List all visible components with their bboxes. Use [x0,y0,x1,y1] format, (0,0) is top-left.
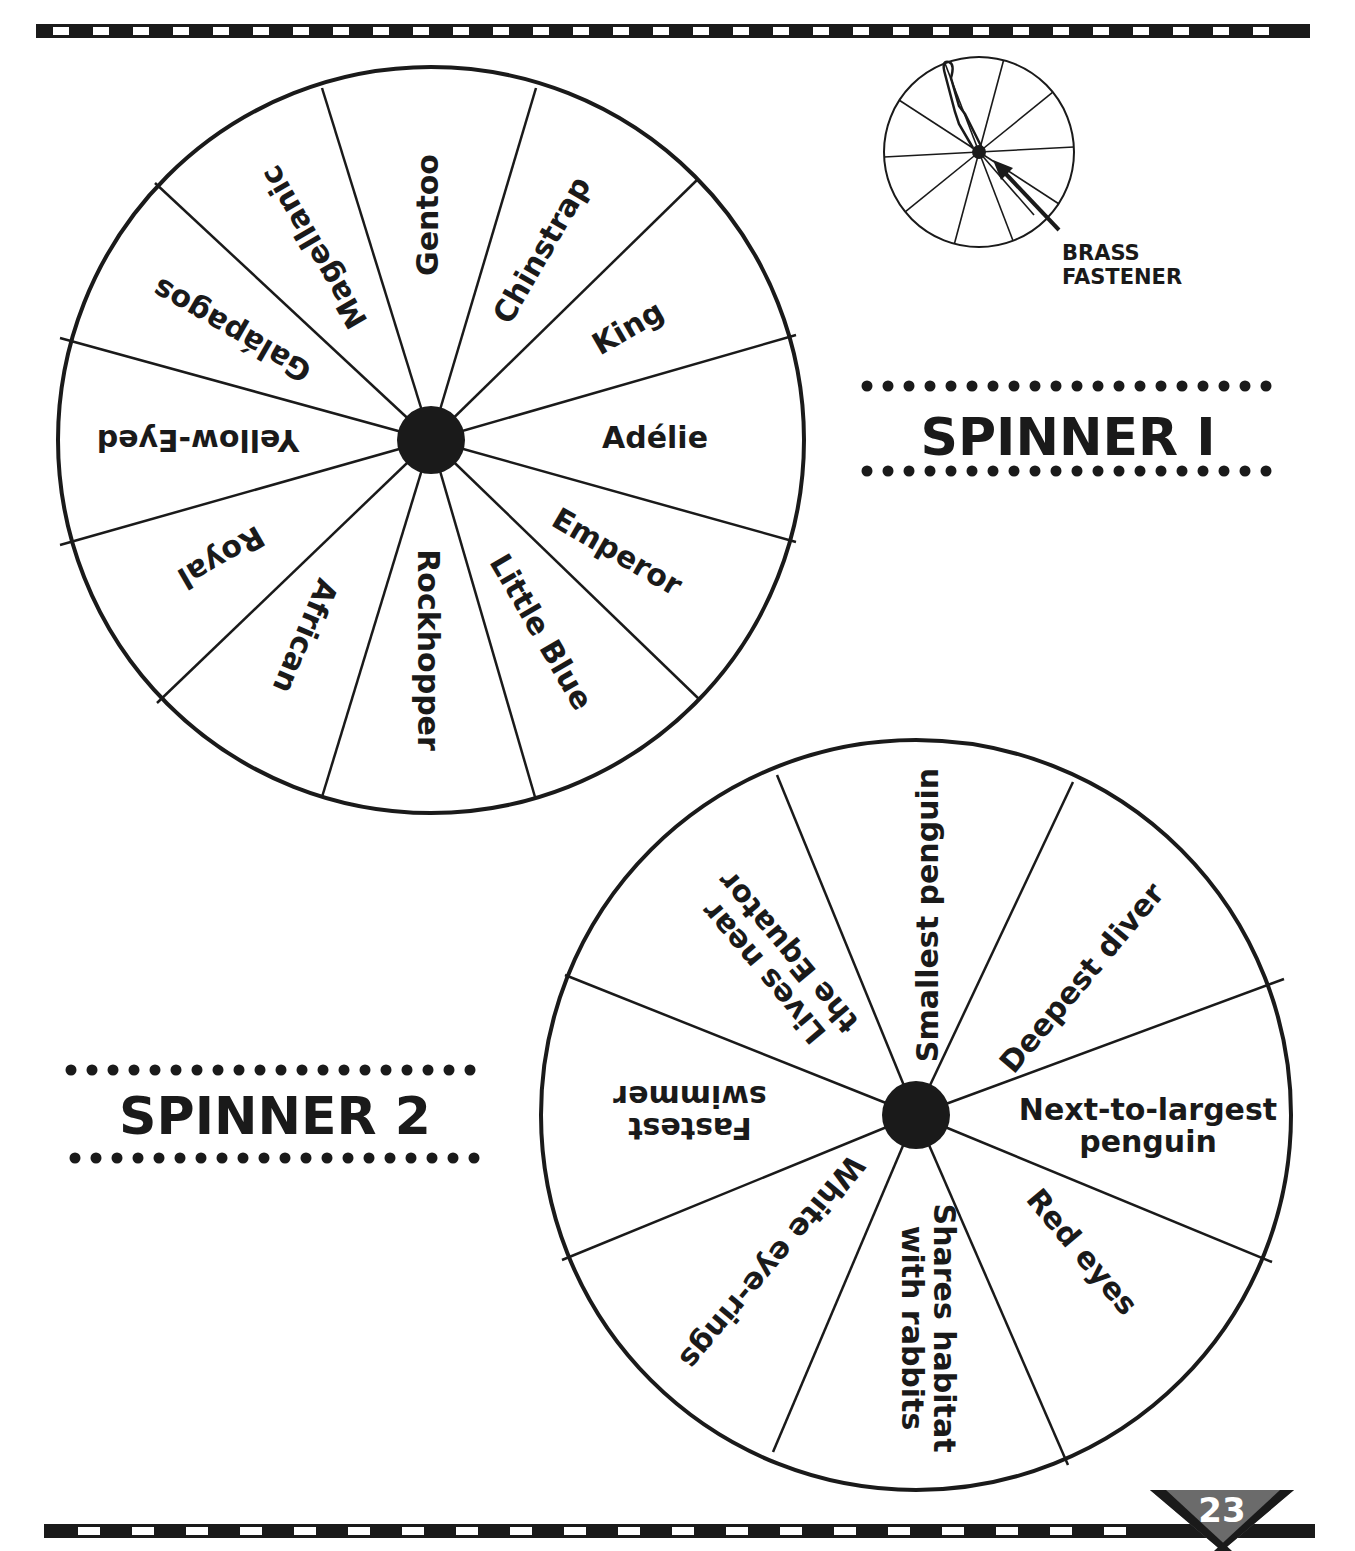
segment-label: Yellow-Eyed [97,423,301,458]
spinner-2-title: SPINNER 2 [119,1086,431,1146]
title-dot [862,466,873,477]
rule-dash [1253,27,1269,35]
rule-dash [402,1527,424,1535]
spinner-1-title-block: SPINNER I [862,381,1272,477]
title-dot [1093,466,1104,477]
title-dot [1009,381,1020,392]
title-dot [301,1153,312,1164]
brass-fastener-hub [882,1081,950,1149]
segment-label-line: penguin [1079,1124,1217,1159]
rule-dash [510,1527,532,1535]
segment-label-line: Gentoo [410,154,445,276]
rule-dash [733,27,749,35]
title-dot [175,1153,186,1164]
rule-dash [773,27,789,35]
title-dot [448,1153,459,1164]
title-dot [883,381,894,392]
title-dot [1009,466,1020,477]
title-dot [87,1065,98,1076]
rule-dash [1093,27,1109,35]
rule-dash [1133,27,1149,35]
title-dot [255,1065,266,1076]
title-dot [280,1153,291,1164]
rule-dash [293,27,309,35]
title-dot [444,1065,455,1076]
title-dot [883,466,894,477]
title-dot [1030,381,1041,392]
spinner-2-title-block: SPINNER 2 [66,1065,480,1164]
rule-dash [672,1527,694,1535]
title-dot [423,1065,434,1076]
rule-dash [53,27,69,35]
segment-label: Shares habitatwith rabbits [895,1204,962,1453]
title-dot [91,1153,102,1164]
segment-label: Adélie [602,420,708,455]
rule-dash [933,27,949,35]
spinner-2-wheel: Smallest penguinDeepest diverNext-to-lar… [541,740,1291,1490]
rule-dash [613,27,629,35]
rule-dash [618,1527,640,1535]
title-dot [862,381,873,392]
title-dot [339,1065,350,1076]
title-dot [381,1065,392,1076]
title-dot [192,1065,203,1076]
segment-label-line: with rabbits [895,1226,930,1431]
rule-dash [726,1527,748,1535]
rule-dash [413,27,429,35]
title-dot [967,381,978,392]
title-dot [133,1153,144,1164]
title-dot [1240,466,1251,477]
title-dot [364,1153,375,1164]
title-dot [1072,466,1083,477]
title-dot [1072,381,1083,392]
rule-dash [693,27,709,35]
rule-dash [132,1527,154,1535]
title-dot [150,1065,161,1076]
rule-dash [853,27,869,35]
title-dot [108,1065,119,1076]
title-dot [925,466,936,477]
title-dot [469,1153,480,1164]
title-dot [1114,466,1125,477]
title-dot [904,466,915,477]
bottom-dashed-rule [44,1524,1315,1538]
rule-dash [456,1527,478,1535]
title-dot [1198,381,1209,392]
rule-dash [780,1527,802,1535]
segment-label-line: Adélie [602,420,708,455]
rule-dash [253,27,269,35]
spinner-1-title: SPINNER I [921,407,1216,467]
title-dot [1135,381,1146,392]
spinner-1-wheel: GentooChinstrapKingAdélieEmperorLittle B… [58,67,804,813]
rule-dash [1104,1527,1126,1535]
title-dot [318,1065,329,1076]
title-dot [171,1065,182,1076]
rule-dash [996,1527,1018,1535]
title-dot [385,1153,396,1164]
title-dot [1156,466,1167,477]
rule-dash [1013,27,1029,35]
page-canvas: GentooChinstrapKingAdélieEmperorLittle B… [0,0,1355,1551]
segment-label-line: Shares habitat [927,1204,962,1453]
title-dot [1093,381,1104,392]
title-dot [276,1065,287,1076]
title-dot [465,1065,476,1076]
rule-dash [493,27,509,35]
rule-dash [893,27,909,35]
title-dot [1177,381,1188,392]
mini-spinner [884,57,1074,247]
segment-label-line: Yellow-Eyed [97,423,301,458]
title-dot [343,1153,354,1164]
segment-label-line: Rockhopper [411,549,446,751]
title-dot [322,1153,333,1164]
rule-dash [93,27,109,35]
title-dot [238,1153,249,1164]
segment-label: Gentoo [410,154,445,276]
segment-label-line: Fastest [628,1111,752,1146]
assembly-diagram: BRASS FASTENER [884,57,1182,289]
fastener-label: FASTENER [1062,265,1182,289]
rule-dash [973,27,989,35]
segment-label: Fastestswimmer [613,1079,767,1146]
title-dot [1030,466,1041,477]
title-dot [946,381,957,392]
